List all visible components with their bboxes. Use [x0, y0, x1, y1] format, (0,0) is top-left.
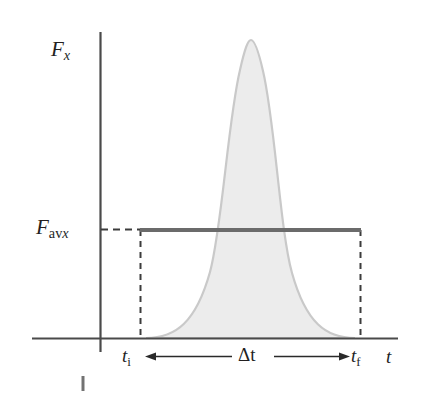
- average-force-label-sub-av: av: [49, 225, 62, 241]
- y-axis-label-base: F: [51, 37, 64, 61]
- y-axis-label: Fx: [51, 39, 70, 60]
- t-final-label: tf: [351, 346, 361, 365]
- average-force-label-base: F: [36, 215, 49, 239]
- delta-t-left-arrowhead: [145, 353, 156, 361]
- average-force-label: Favx: [36, 217, 69, 238]
- delta-t-label: Δt: [238, 345, 256, 364]
- t-initial-label: ti: [122, 346, 131, 365]
- x-axis-label: t: [386, 347, 391, 366]
- force-pulse-curve: [146, 40, 355, 338]
- t-initial-label-subscript: i: [127, 354, 131, 369]
- average-force-label-sub-x: x: [62, 225, 68, 241]
- delta-t-right-arrowhead: [339, 353, 350, 361]
- y-axis-label-subscript: x: [64, 47, 70, 63]
- t-final-label-subscript: f: [356, 354, 360, 369]
